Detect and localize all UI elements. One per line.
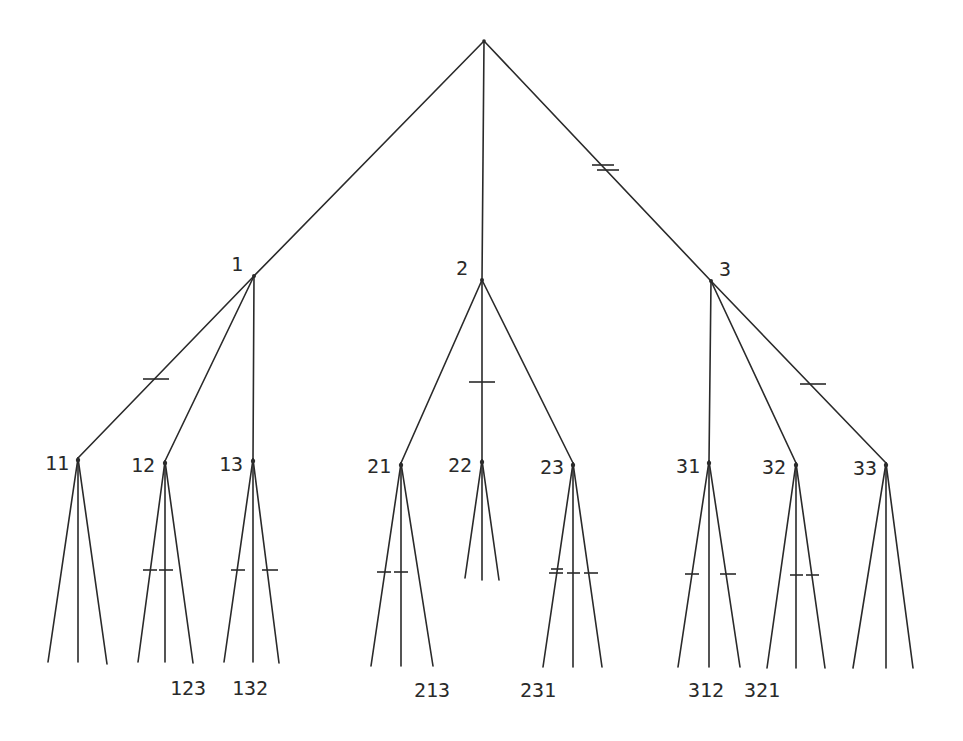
node-1	[252, 274, 256, 278]
node-label-11: 11	[45, 453, 69, 473]
leaf-label-123: 123	[170, 678, 206, 698]
edge-root-1	[254, 41, 484, 276]
edge-33-leaf-right	[886, 463, 913, 668]
edge-3-32	[711, 281, 796, 463]
edge-1-11	[78, 276, 254, 458]
node-22	[480, 460, 484, 464]
edge-21-leaf-right	[401, 463, 433, 666]
edge-3-31	[709, 281, 711, 461]
node-label-13: 13	[219, 454, 243, 474]
edge-11-leaf-left	[48, 458, 78, 662]
node-31	[707, 461, 711, 465]
edge-21-leaf-left	[371, 463, 401, 666]
node-2	[480, 278, 484, 282]
edge-root-3	[484, 41, 711, 281]
edge-2-21	[401, 280, 482, 463]
node-root	[482, 39, 486, 43]
leaf-label-312: 312	[688, 680, 724, 700]
edge-32-leaf-left	[767, 463, 796, 668]
edge-3-33	[711, 281, 886, 463]
edge-1-13	[253, 276, 254, 459]
node-label-2: 2	[456, 258, 468, 278]
edge-13-leaf-right	[253, 459, 279, 663]
edge-23-leaf-right	[573, 463, 602, 667]
edge-31-leaf-left	[678, 461, 709, 667]
node-32	[794, 463, 798, 467]
node-label-21: 21	[367, 456, 391, 476]
level1-edges	[78, 276, 886, 463]
leaf-label-231: 231	[520, 680, 556, 700]
edge-12-leaf-left	[138, 461, 165, 662]
leaf-label-321: 321	[744, 680, 780, 700]
game-tree-diagram	[0, 0, 963, 741]
node-13	[251, 459, 255, 463]
edge-33-leaf-left	[853, 463, 886, 668]
node-label-1: 1	[231, 254, 243, 274]
node-23	[571, 463, 575, 467]
edge-23-leaf-left	[543, 463, 573, 667]
edge-22-leaf-left	[465, 460, 482, 578]
edge-1-12	[165, 276, 254, 461]
node-3	[709, 279, 713, 283]
root-edges	[254, 41, 711, 281]
leaf-label-132: 132	[232, 678, 268, 698]
edge-11-leaf-right	[78, 458, 107, 664]
edge-12-leaf-right	[165, 461, 193, 663]
edge-31-leaf-right	[709, 461, 740, 667]
edge-root-2	[482, 41, 484, 280]
node-33	[884, 463, 888, 467]
leaf-label-213: 213	[414, 680, 450, 700]
node-label-12: 12	[131, 455, 155, 475]
node-12	[163, 461, 167, 465]
edge-22-leaf-right	[482, 460, 499, 580]
node-label-31: 31	[676, 456, 700, 476]
node-label-32: 32	[762, 457, 786, 477]
leaf-edges	[48, 458, 913, 668]
node-label-3: 3	[719, 259, 731, 279]
node-label-23: 23	[540, 457, 564, 477]
node-11	[76, 458, 80, 462]
edge-32-leaf-right	[796, 463, 825, 668]
node-label-33: 33	[853, 458, 877, 478]
edge-2-23	[482, 280, 573, 463]
edge-13-leaf-left	[224, 459, 253, 662]
node-label-22: 22	[448, 455, 472, 475]
node-21	[399, 463, 403, 467]
